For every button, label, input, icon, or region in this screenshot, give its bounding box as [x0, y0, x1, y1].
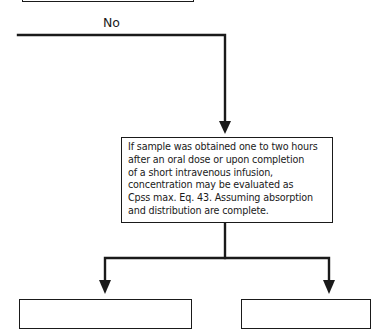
arrowhead-down-icon	[99, 280, 111, 294]
decision-text-line: after an oral dose or upon completion	[128, 154, 328, 167]
decision-text-line: of a short intravenous infusion,	[128, 167, 328, 180]
right-outcome-box	[241, 299, 371, 329]
decision-box: If sample was obtained one to two hours …	[121, 137, 333, 223]
decision-text-line: If sample was obtained one to two hours	[128, 141, 328, 154]
arrowhead-down-icon	[323, 280, 335, 294]
arrowhead-down-icon	[219, 121, 231, 134]
left-outcome-box	[19, 299, 192, 329]
split-connector	[105, 258, 329, 284]
no-branch-connector	[18, 35, 225, 124]
decision-text-line: and distribution are complete.	[128, 205, 328, 218]
decision-text-line: Cpss max. Eq. 43. Assuming absorption	[128, 192, 328, 205]
decision-text-line: concentration may be evaluated as	[128, 179, 328, 192]
